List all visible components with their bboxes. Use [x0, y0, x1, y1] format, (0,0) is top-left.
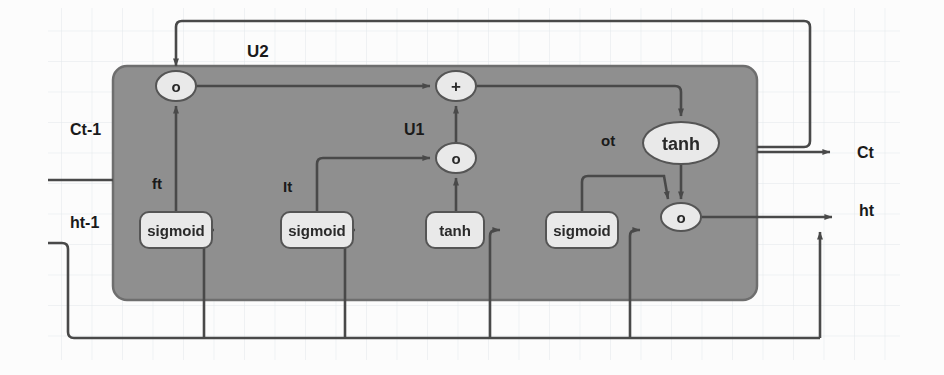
gate-box-candidate-label: tanh [439, 222, 471, 239]
cell-tanh-node-label: tanh [662, 134, 700, 154]
label-output: ot [601, 132, 615, 149]
lstm-diagram-canvas: sigmoid sigmoid tanh sigmoid o + o o tan… [0, 0, 944, 375]
gate-box-forget-label: sigmoid [147, 222, 205, 239]
input-multiply-op[interactable]: o [436, 143, 476, 173]
gate-box-input[interactable]: sigmoid [281, 212, 353, 248]
gate-box-input-label: sigmoid [288, 222, 346, 239]
label-h-prev: ht-1 [70, 214, 99, 231]
gate-box-forget[interactable]: sigmoid [140, 212, 212, 248]
label-c-out: Ct [857, 144, 875, 161]
lstm-diagram-svg: sigmoid sigmoid tanh sigmoid o + o o tan… [0, 0, 944, 375]
forget-multiply-op-symbol: o [171, 78, 180, 95]
output-multiply-op[interactable]: o [661, 203, 701, 231]
label-forget: ft [152, 175, 162, 192]
state-add-op[interactable]: + [436, 71, 476, 101]
label-h-out: ht [859, 202, 875, 219]
lstm-cell-body [113, 66, 757, 300]
label-input: It [283, 178, 292, 195]
output-multiply-op-symbol: o [676, 209, 685, 226]
forget-multiply-op[interactable]: o [156, 71, 196, 101]
label-u1: U1 [404, 121, 425, 138]
gate-box-candidate[interactable]: tanh [426, 212, 484, 248]
label-u2: U2 [247, 42, 269, 61]
gate-box-output-label: sigmoid [553, 222, 611, 239]
label-c-prev: Ct-1 [70, 121, 101, 138]
gate-box-output[interactable]: sigmoid [546, 212, 618, 248]
cell-tanh-node[interactable]: tanh [643, 122, 719, 164]
input-multiply-op-symbol: o [451, 150, 460, 167]
state-add-op-symbol: + [451, 77, 461, 96]
